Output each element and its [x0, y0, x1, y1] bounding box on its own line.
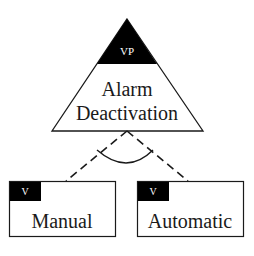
- feature-diagram: VP Alarm Deactivation V Manual V Automat…: [0, 0, 254, 256]
- variation-point: VP Alarm Deactivation: [52, 19, 203, 131]
- variant-manual-label: Manual: [31, 210, 93, 232]
- variation-point-label-line1: Alarm: [101, 78, 153, 100]
- variant-automatic-tag: V: [149, 186, 157, 197]
- variant-manual: V Manual: [10, 182, 116, 237]
- relation-line-manual: [66, 131, 127, 181]
- variation-point-tag: VP: [120, 45, 134, 57]
- alternative-arc: [97, 150, 153, 163]
- variant-automatic-label: Automatic: [148, 210, 233, 232]
- variant-manual-tag: V: [21, 186, 29, 197]
- variant-automatic: V Automatic: [138, 182, 244, 237]
- variation-point-tag-background: [97, 19, 157, 64]
- variation-point-label-line2: Deactivation: [76, 102, 178, 124]
- relation-line-automatic: [127, 131, 188, 181]
